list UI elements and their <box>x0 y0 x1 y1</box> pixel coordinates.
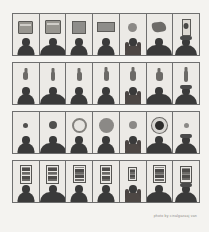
person-silhouette <box>93 183 119 202</box>
person-area <box>66 85 92 104</box>
person-head <box>129 136 137 144</box>
person-area <box>93 183 119 202</box>
person-area <box>147 85 173 104</box>
grid-cell[interactable] <box>120 63 147 104</box>
person-silhouette <box>93 85 119 104</box>
person-area <box>66 134 92 153</box>
grid-cell[interactable] <box>147 112 174 153</box>
person-area <box>40 134 66 153</box>
person-silhouette <box>66 85 92 104</box>
person-head <box>182 38 190 46</box>
person-silhouette <box>40 134 66 153</box>
grid-cell[interactable] <box>93 63 120 104</box>
object-area <box>147 16 173 38</box>
grid-cell[interactable] <box>173 161 199 202</box>
object-area <box>120 65 146 87</box>
person-silhouette <box>120 134 146 153</box>
person-silhouette <box>173 183 199 202</box>
person-silhouette <box>13 36 39 55</box>
person-head <box>102 136 110 144</box>
grid-cell[interactable] <box>173 112 199 153</box>
grid-cell[interactable] <box>66 112 93 153</box>
grid-cell[interactable] <box>66 161 93 202</box>
person-silhouette <box>40 85 66 104</box>
person-head <box>155 136 163 144</box>
person-silhouette <box>120 183 146 202</box>
object-area <box>40 163 66 185</box>
person-silhouette <box>66 134 92 153</box>
object-area <box>173 16 199 38</box>
object-ring-icon <box>72 118 87 133</box>
person-silhouette <box>40 183 66 202</box>
grid-cell[interactable] <box>93 112 120 153</box>
grid-row <box>12 13 200 56</box>
object-area <box>13 16 39 38</box>
person-silhouette <box>93 134 119 153</box>
grid-cell[interactable] <box>120 14 147 55</box>
grid-cell[interactable] <box>13 161 40 202</box>
object-area <box>66 163 92 185</box>
person-body <box>147 143 173 153</box>
grid-cell[interactable] <box>147 161 174 202</box>
grid-cell[interactable] <box>13 63 40 104</box>
object-tall-icon <box>182 19 191 36</box>
object-poster-icon <box>73 165 86 183</box>
person-body <box>98 45 115 55</box>
person-area <box>120 85 146 104</box>
grid-cell[interactable] <box>66 63 93 104</box>
person-head <box>129 38 137 46</box>
person-area <box>13 36 39 55</box>
person-body <box>125 192 141 202</box>
grid-cell[interactable] <box>173 63 199 104</box>
object-disc-gray-icon <box>99 118 114 133</box>
object-area <box>120 163 146 185</box>
grid-cell[interactable] <box>13 112 40 153</box>
artwork-sheet: + photo by cinalgazaaj van <box>0 0 209 232</box>
person-silhouette <box>13 85 39 104</box>
person-area <box>120 36 146 55</box>
grid-cell[interactable] <box>40 112 67 153</box>
object-bottle-icon <box>156 72 163 81</box>
object-area <box>120 16 146 38</box>
grid-cell[interactable] <box>147 14 174 55</box>
person-area <box>120 183 146 202</box>
grid-cell[interactable] <box>173 14 199 55</box>
grid-cell[interactable] <box>13 14 40 55</box>
grid-cell[interactable] <box>40 161 67 202</box>
person-head <box>102 38 110 46</box>
person-body <box>175 94 197 104</box>
object-area <box>93 65 119 87</box>
grid-cell[interactable] <box>147 63 174 104</box>
grid-cell[interactable] <box>40 14 67 55</box>
person-silhouette <box>66 36 92 55</box>
object-area <box>66 16 92 38</box>
grid-cell[interactable] <box>66 14 93 55</box>
person-area <box>120 134 146 153</box>
object-area <box>147 114 173 136</box>
object-area <box>93 114 119 136</box>
person-area <box>40 183 66 202</box>
object-bottle-icon <box>130 71 136 81</box>
person-body <box>147 192 173 202</box>
person-area <box>66 183 92 202</box>
person-area <box>40 85 66 104</box>
object-box-icon <box>45 20 61 34</box>
grid-cell[interactable] <box>120 112 147 153</box>
object-area <box>173 163 199 185</box>
grid-cell[interactable] <box>93 14 120 55</box>
grid-cell[interactable] <box>120 161 147 202</box>
object-disc-gray-icon <box>128 23 137 32</box>
grid-cell[interactable] <box>93 161 120 202</box>
object-poster-icon <box>100 165 112 184</box>
grid-cell[interactable] <box>40 63 67 104</box>
object-disc-icon <box>49 121 57 129</box>
person-body <box>175 143 197 153</box>
object-poster-icon <box>128 167 137 181</box>
person-head <box>102 87 110 95</box>
grid-row <box>12 160 200 203</box>
person-head <box>75 38 83 46</box>
object-rect-icon <box>72 21 86 34</box>
person-head <box>129 185 137 193</box>
person-area <box>93 36 119 55</box>
person-head <box>182 87 190 95</box>
